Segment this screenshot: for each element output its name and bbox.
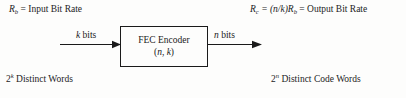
input-arrow-text: bits [80, 30, 96, 40]
input-rate-symbol: R [9, 4, 15, 14]
encoder-block-title: FEC Encoder [138, 35, 189, 47]
output-arrow-label: n bits [214, 31, 235, 41]
output-arrow-head [252, 41, 262, 48]
output-rate-symbol-2: R [288, 4, 294, 14]
output-rate-subscript: c [256, 8, 259, 15]
output-rate-symbol: R [250, 4, 256, 14]
input-arrow-label: k bits [76, 31, 96, 41]
input-words-text: Distinct Words [14, 74, 73, 84]
fec-encoder-block: FEC Encoder (n, k) [120, 26, 208, 67]
input-words-exponent: k [11, 72, 14, 79]
input-bit-rate-label: Rb = Input Bit Rate [9, 5, 82, 15]
encoder-block-parameters: (n, k) [154, 47, 174, 59]
output-bit-rate-label: Rc = (n/k)Rb = Output Bit Rate [250, 5, 367, 15]
output-words-exponent: n [276, 72, 279, 79]
output-rate-ratio: = (n/k) [259, 4, 288, 14]
output-rate-subscript-2: b [294, 8, 297, 15]
output-words-text: Distinct Code Words [279, 74, 361, 84]
fec-encoder-diagram: Rb = Input Bit Rate Rc = (n/k)Rb = Outpu… [0, 0, 406, 98]
output-rate-text: = Output Bit Rate [297, 4, 367, 14]
paren-close: ) [171, 47, 174, 57]
input-rate-subscript: b [15, 8, 18, 15]
output-distinct-code-words-label: 2n Distinct Code Words [271, 75, 361, 85]
input-rate-text: = Input Bit Rate [18, 4, 82, 14]
output-arrow-text: bits [219, 30, 235, 40]
input-distinct-words-label: 2k Distinct Words [6, 75, 73, 85]
